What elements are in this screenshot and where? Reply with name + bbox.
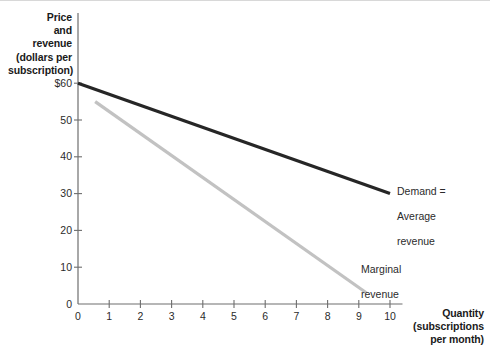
demand-curve-line <box>78 83 390 193</box>
chart-figure: Price and revenue (dollars per subscript… <box>0 0 490 350</box>
marginal-revenue-curve-line <box>95 102 366 293</box>
demand-curve-label: Demand = Average revenue <box>397 172 446 260</box>
marginal-revenue-curve-label: Marginal revenue <box>361 250 401 313</box>
demand-curve-label-line-2: Average <box>397 210 446 223</box>
demand-curve-label-line-1: Demand = <box>397 185 446 198</box>
marginal-revenue-label-line-1: Marginal <box>361 263 401 276</box>
demand-curve-label-line-3: revenue <box>397 235 446 248</box>
marginal-revenue-label-line-2: revenue <box>361 288 401 301</box>
